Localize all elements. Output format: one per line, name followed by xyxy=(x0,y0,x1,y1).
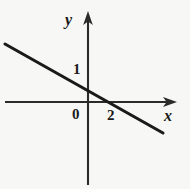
y-intercept-tick-label: 1 xyxy=(73,62,81,77)
linear-function-line xyxy=(5,44,163,133)
origin-label: 0 xyxy=(72,107,80,122)
graph-figure: y x 1 0 2 xyxy=(0,0,190,189)
coordinate-plane-svg xyxy=(0,0,190,189)
x-axis xyxy=(5,97,177,107)
x-axis-label: x xyxy=(164,108,172,124)
x-intercept-tick-label: 2 xyxy=(107,108,115,123)
y-axis xyxy=(83,11,93,185)
y-axis-label: y xyxy=(65,12,72,28)
